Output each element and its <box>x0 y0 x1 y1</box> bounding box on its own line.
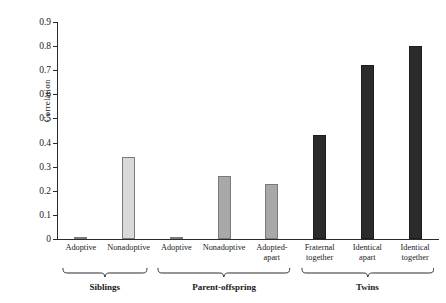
group-label: Siblings <box>62 282 148 292</box>
group-bracket <box>157 268 291 277</box>
y-tick-label: 0.5 <box>39 113 51 123</box>
bar <box>218 176 231 239</box>
plot-area: 0.90.80.70.60.50.40.30.20.10 <box>57 22 439 240</box>
y-tick-mark <box>53 239 57 240</box>
y-tick-mark <box>53 118 57 119</box>
y-tick-label: 0.8 <box>39 41 51 51</box>
group-label: Twins <box>301 282 435 292</box>
y-tick-label: 0.2 <box>39 186 51 196</box>
bar <box>409 46 422 239</box>
correlation-bar-chart: Correlation 0.90.80.70.60.50.40.30.20.10… <box>0 0 446 303</box>
bar <box>313 135 326 239</box>
y-tick-mark <box>53 215 57 216</box>
bar <box>361 65 374 239</box>
y-tick-label: 0.1 <box>39 210 51 220</box>
y-tick-label: 0.4 <box>39 138 51 148</box>
y-tick-mark <box>53 143 57 144</box>
category-label: Identical together <box>383 243 446 262</box>
bar <box>122 157 135 239</box>
y-tick-mark <box>53 167 57 168</box>
group-bracket <box>62 268 148 277</box>
y-tick-mark <box>53 22 57 23</box>
y-tick-label: 0.3 <box>39 162 51 172</box>
y-tick-mark <box>53 94 57 95</box>
x-axis-line <box>57 239 439 240</box>
bar <box>265 184 278 239</box>
y-tick-mark <box>53 46 57 47</box>
group-bracket <box>301 268 435 277</box>
bar <box>74 237 87 239</box>
group-label: Parent-offspring <box>157 282 291 292</box>
bar <box>170 237 183 239</box>
y-tick-label: 0.7 <box>39 65 51 75</box>
y-tick-label: 0.9 <box>39 17 51 27</box>
y-tick-mark <box>53 70 57 71</box>
y-axis-line <box>57 22 58 240</box>
y-tick-label: 0.6 <box>39 89 51 99</box>
y-tick-mark <box>53 191 57 192</box>
